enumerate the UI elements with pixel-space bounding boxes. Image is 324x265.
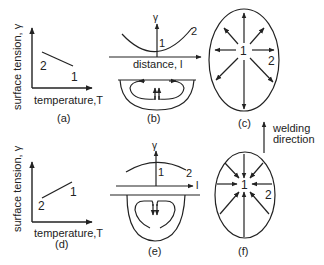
left-flow-loop [130, 81, 155, 99]
point-1-label: 1 [241, 178, 248, 192]
panel-label-d: (d) [55, 238, 68, 250]
y-axis-label: surface tension, γ [11, 145, 23, 232]
y-axis-label: surface tension, γ [11, 23, 23, 110]
arrow-upright-icon [220, 192, 239, 214]
point-2-label: 2 [38, 199, 45, 213]
outward-radial-arrows [215, 13, 274, 109]
gamma-axis-label: γ [153, 12, 158, 23]
right-flow-loop [159, 81, 184, 99]
panel-label-b: (b) [147, 112, 160, 124]
point-1-label: 1 [158, 166, 164, 178]
point-1-label: 1 [240, 44, 247, 58]
arrow-downleft-icon [250, 163, 263, 178]
direction-label: direction [273, 133, 315, 145]
left-flow-loop [135, 201, 153, 228]
marangoni-flow-diagram: 2 1 surface tension, γ temperature,T (a)… [0, 0, 324, 265]
arrow-downright-icon [225, 163, 239, 178]
panel-c: 1 2 (c) [209, 9, 279, 129]
point-2-label: 2 [191, 25, 197, 37]
panel-label-a: (a) [57, 112, 70, 124]
panel-d: 2 1 surface tension, γ temperature,T (d) [11, 145, 103, 250]
distance-axis-label: distance, l [133, 58, 183, 70]
panel-label-e: (e) [148, 245, 161, 257]
x-axis-label: temperature,T [34, 227, 103, 239]
inward-radial-arrows [217, 154, 272, 237]
increasing-line [42, 182, 72, 198]
distance-axis-label: l [196, 179, 198, 191]
point-1-label: 1 [159, 37, 165, 49]
weld-pool-boundary [127, 195, 185, 241]
point-2-label: 2 [265, 188, 272, 202]
point-1-label: 1 [70, 185, 77, 199]
panel-e: γ 1 2 l (e) [110, 140, 200, 257]
point-2-label: 2 [268, 54, 275, 68]
arrow-upleft-icon [224, 28, 238, 44]
panel-label-f: (f) [238, 245, 248, 257]
panel-a: 2 1 surface tension, γ temperature,T (a) [11, 23, 103, 124]
point-2-label: 2 [186, 167, 192, 179]
gamma-axis-label: γ [152, 140, 157, 151]
x-axis-label: temperature,T [34, 94, 103, 106]
arrow-upright-icon [250, 28, 264, 44]
panel-b: γ 1 2 distance, l (b) [109, 12, 201, 124]
point-2-label: 2 [40, 59, 47, 73]
welding-direction-indicator: welding direction [264, 122, 315, 153]
arrow-downleft-icon [216, 58, 238, 80]
panel-label-c: (c) [238, 117, 251, 129]
panel-f: 1 2 (f) [215, 152, 275, 257]
point-1-label: 1 [71, 70, 78, 84]
right-flow-loop [157, 201, 175, 228]
